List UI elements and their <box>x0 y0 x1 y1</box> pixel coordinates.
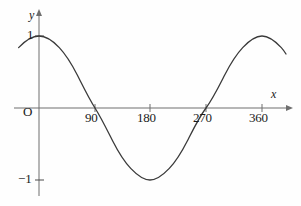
x-tick-label-90: 90 <box>85 111 98 124</box>
y-axis-arrowhead <box>36 9 42 16</box>
cosine-graph-figure: y x O 1 −1 90 180 270 360 <box>0 0 301 206</box>
x-axis-arrowhead <box>286 105 293 111</box>
origin-label: O <box>23 105 32 118</box>
y-axis <box>36 9 42 196</box>
plot-canvas <box>0 0 301 206</box>
x-axis-label: x <box>271 88 276 100</box>
y-tick-label-1: 1 <box>27 28 34 41</box>
y-tick-label-minus-1: −1 <box>18 172 32 185</box>
x-tick-label-360: 360 <box>249 111 268 124</box>
y-axis-label: y <box>29 9 34 21</box>
x-tick-label-270: 270 <box>193 111 212 124</box>
x-tick-label-180: 180 <box>137 111 156 124</box>
